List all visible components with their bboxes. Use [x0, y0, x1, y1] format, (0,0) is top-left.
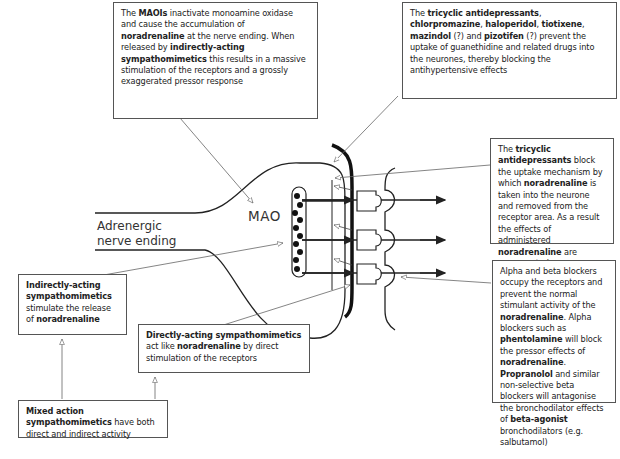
nerve-ending-label: Adrenergic nerve ending	[97, 219, 176, 249]
text-run: (?) and	[451, 31, 484, 41]
bold-term: beta-agonist	[510, 414, 567, 424]
bold-term: noradrenaline	[500, 357, 564, 367]
bold-term: noradrenaline	[498, 247, 562, 257]
nerve-ending-outline	[95, 163, 345, 338]
nerve-ending-label-line2: nerve ending	[97, 234, 176, 249]
bold-term: mazindol	[410, 31, 451, 41]
bold-term: noradrenaline	[121, 31, 185, 41]
text-run: The	[410, 8, 427, 18]
bold-term: tricyclic antidepressants	[427, 8, 538, 18]
bold-term: noradrenaline	[177, 341, 241, 351]
maois-box: The MAOIs inactivate monoamine oxidase a…	[113, 2, 318, 119]
uptake-barrier	[332, 145, 352, 317]
bold-term: MAOIs	[138, 8, 167, 18]
bold-term: noradrenaline	[500, 312, 564, 322]
text-run: ,	[539, 8, 542, 18]
bold-term: chlorpromazine	[410, 19, 480, 29]
bold-term: noradrenaline	[36, 314, 100, 324]
text-run: is taken into the neurone and removed fr…	[498, 178, 599, 245]
text-run: The	[498, 144, 515, 154]
tricyclic-uptake-box: The tricyclic antidepressants block the …	[490, 138, 614, 244]
text-run: Alpha and beta blockers occupy the recep…	[500, 266, 602, 310]
bold-term: phentolamine	[500, 334, 562, 344]
blockers-box: Alpha and beta blockers occupy the recep…	[492, 260, 616, 403]
bold-term: Mixed action sympathomimetics	[26, 406, 112, 427]
uptake-arrows	[334, 186, 352, 265]
text-run: The	[121, 8, 138, 18]
indirect-acting-box: Indirectly-acting sympathomimetics stimu…	[18, 274, 127, 335]
receptors	[357, 191, 381, 284]
bold-term: pizotifen	[484, 31, 524, 41]
tricyclic-guanethidine-box: The tricyclic antidepressants, chlorprom…	[402, 2, 617, 99]
bold-term: Indirectly-acting sympathomimetics	[26, 280, 112, 301]
bold-term: tiotixene	[542, 19, 582, 29]
text-run: .	[564, 357, 567, 367]
bold-term: haloperidol	[485, 19, 536, 29]
direct-acting-box: Directly-acting sympathomimetics act lik…	[138, 324, 310, 373]
postsynaptic-membrane	[385, 168, 395, 330]
mao-label: MAO	[248, 208, 281, 224]
mixed-action-box: Mixed action sympathomimetics have both …	[18, 400, 168, 438]
bold-term: Propranolol	[500, 369, 553, 379]
text-run: act like	[146, 341, 177, 351]
bold-term: Directly-acting sympathomimetics	[146, 330, 301, 340]
nerve-ending-label-line1: Adrenergic	[97, 219, 176, 234]
text-run: ,	[582, 19, 585, 29]
bold-term: noradrenaline	[524, 178, 588, 188]
